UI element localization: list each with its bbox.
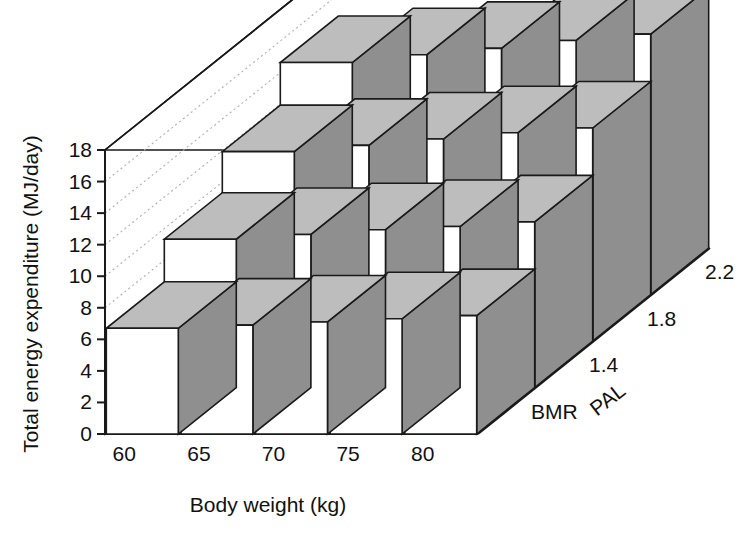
depth-axis-title: PAL	[585, 378, 629, 420]
depth-tick-label: 1.4	[589, 353, 619, 376]
y-tick-label: 4	[80, 359, 92, 382]
x-tick-label: 80	[411, 442, 434, 465]
y-tick-label: 6	[80, 327, 92, 350]
y-tick-label: 16	[69, 170, 92, 193]
x-tick-label: 60	[113, 442, 136, 465]
depth-tick-label: 2.2	[705, 260, 734, 283]
y-tick-label: 12	[69, 233, 92, 256]
y-tick-label: 8	[80, 296, 92, 319]
y-tick-label: 2	[80, 390, 92, 413]
chart-3d-bar: 024681012141618Total energy expenditure …	[0, 0, 741, 542]
y-tick-label: 10	[69, 264, 92, 287]
y-axis-title: Total energy expenditure (MJ/day)	[19, 135, 42, 453]
x-tick-label: 65	[187, 442, 210, 465]
x-tick-label: 75	[336, 442, 359, 465]
depth-tick-label: 1.8	[647, 307, 676, 330]
y-tick-label: 0	[80, 422, 92, 445]
bar-side-face	[651, 0, 709, 294]
y-tick-label: 18	[69, 138, 92, 161]
bar-front-face	[106, 328, 178, 434]
chart-canvas: 024681012141618Total energy expenditure …	[0, 0, 741, 542]
x-axis: 6065707580Body weight (kg)	[105, 434, 478, 516]
y-tick-label: 14	[69, 201, 93, 224]
x-axis-title: Body weight (kg)	[190, 493, 346, 516]
y-axis: 024681012141618Total energy expenditure …	[19, 135, 105, 453]
depth-tick-label: BMR	[531, 400, 578, 423]
x-tick-label: 70	[262, 442, 285, 465]
bars-group	[106, 0, 708, 434]
